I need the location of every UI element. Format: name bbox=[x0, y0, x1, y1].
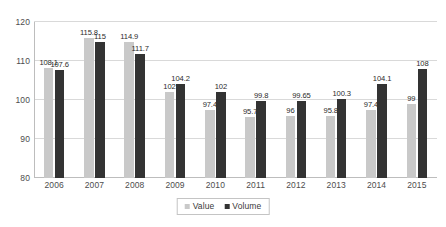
legend-label-value: Value bbox=[193, 201, 215, 211]
bar-volume-2010 bbox=[216, 92, 226, 178]
x-axis-tick-label-2011: 2011 bbox=[236, 180, 276, 190]
volume-swatch-icon bbox=[224, 204, 229, 209]
bar-label-volume-2009: 104.2 bbox=[170, 74, 192, 83]
bar-value-2012 bbox=[286, 116, 296, 178]
bar-group: 115.8115 bbox=[74, 22, 114, 178]
x-axis-tick-label-2008: 2008 bbox=[115, 180, 155, 190]
x-axis-tick-label-2010: 2010 bbox=[195, 180, 235, 190]
bar-value-2008 bbox=[124, 42, 134, 178]
legend-item-value: Value bbox=[185, 201, 215, 211]
bar-group: 95.799.8 bbox=[236, 22, 276, 178]
bar-volume-2006 bbox=[55, 70, 65, 178]
bar-label-volume-2012: 99.65 bbox=[290, 91, 312, 100]
y-axis-tick-label: 100 bbox=[4, 95, 30, 105]
bar-group: 97.4102 bbox=[195, 22, 235, 178]
bar-value-2009 bbox=[165, 92, 175, 178]
chart-legend: Value Volume bbox=[177, 198, 270, 215]
bar-value-2007 bbox=[84, 38, 94, 178]
x-axis-tick-label-2012: 2012 bbox=[276, 180, 316, 190]
bar-label-volume-2010: 102 bbox=[210, 82, 232, 91]
y-axis-tick-label: 90 bbox=[4, 134, 30, 144]
bar-value-2015 bbox=[407, 104, 417, 178]
bar-group: 9699.65 bbox=[276, 22, 316, 178]
bar-label-volume-2013: 100.3 bbox=[331, 89, 353, 98]
bars-layer: 108.1107.6115.8115114.9111.7102104.297.4… bbox=[34, 22, 437, 178]
bar-value-2006 bbox=[44, 68, 54, 178]
y-axis-tick-label: 120 bbox=[4, 17, 30, 27]
x-axis-tick-label-2006: 2006 bbox=[34, 180, 74, 190]
legend-item-volume: Volume bbox=[224, 201, 261, 211]
x-axis-tick-labels: 2006200720082009201020112012201320142015 bbox=[34, 180, 437, 194]
plot-area: 108.1107.6115.8115114.9111.7102104.297.4… bbox=[34, 22, 437, 178]
bar-value-2010 bbox=[205, 110, 215, 178]
bar-label-volume-2015: 108 bbox=[411, 59, 433, 68]
bar-volume-2011 bbox=[256, 101, 266, 178]
x-axis-tick-label-2007: 2007 bbox=[74, 180, 114, 190]
bar-chart: 108.1107.6115.8115114.9111.7102104.297.4… bbox=[0, 0, 446, 227]
x-axis-tick-label-2014: 2014 bbox=[356, 180, 396, 190]
bar-label-volume-2011: 99.8 bbox=[250, 91, 272, 100]
bar-value-2014 bbox=[366, 110, 376, 178]
bar-volume-2013 bbox=[337, 99, 347, 178]
y-axis-line bbox=[34, 22, 35, 178]
bar-group: 99108 bbox=[397, 22, 437, 178]
value-swatch-icon bbox=[185, 204, 190, 209]
bar-group: 114.9111.7 bbox=[115, 22, 155, 178]
x-axis-tick-label-2009: 2009 bbox=[155, 180, 195, 190]
bar-volume-2009 bbox=[176, 84, 186, 178]
x-axis-tick-label-2013: 2013 bbox=[316, 180, 356, 190]
bar-group: 97.4104.1 bbox=[356, 22, 396, 178]
y-axis-tick-labels: 8090100110120 bbox=[0, 22, 30, 178]
bar-volume-2015 bbox=[418, 69, 428, 178]
legend-label-volume: Volume bbox=[232, 201, 261, 211]
bar-label-volume-2014: 104.1 bbox=[371, 74, 393, 83]
bar-volume-2008 bbox=[135, 54, 145, 178]
x-axis-tick-label-2015: 2015 bbox=[397, 180, 437, 190]
bar-group: 108.1107.6 bbox=[34, 22, 74, 178]
bar-value-2011 bbox=[245, 117, 255, 178]
bar-volume-2014 bbox=[377, 84, 387, 178]
bar-volume-2007 bbox=[95, 42, 105, 179]
bar-value-2013 bbox=[326, 116, 336, 178]
bar-label-volume-2007: 115 bbox=[89, 32, 111, 41]
bar-label-volume-2008: 111.7 bbox=[129, 44, 151, 53]
bar-group: 95.8100.3 bbox=[316, 22, 356, 178]
bar-label-value-2008: 114.9 bbox=[118, 32, 140, 41]
bar-volume-2012 bbox=[297, 101, 307, 178]
y-axis-tick-label: 80 bbox=[4, 173, 30, 183]
bar-group: 102104.2 bbox=[155, 22, 195, 178]
y-axis-tick-label: 110 bbox=[4, 56, 30, 66]
bar-label-volume-2006: 107.6 bbox=[49, 60, 71, 69]
